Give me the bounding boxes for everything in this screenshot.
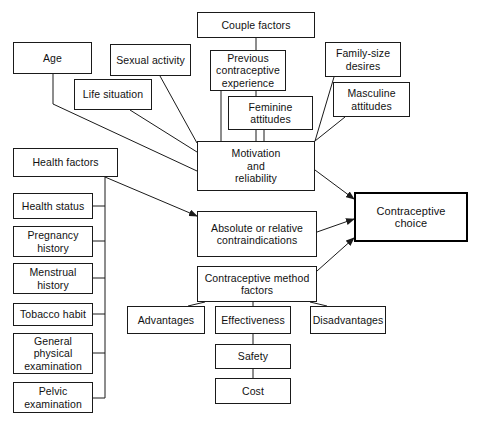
- node-pelvic_exam: Pelvic examination: [13, 382, 93, 413]
- node-label-safety: Safety: [238, 350, 268, 363]
- node-label-couple_factors: Couple factors: [221, 19, 290, 32]
- node-health_status: Health status: [13, 193, 93, 219]
- node-menstrual_history: Menstrual history: [13, 263, 93, 294]
- node-family_size_desires: Family-size desires: [325, 42, 401, 77]
- node-label-feminine_attitudes: Feminine attitudes: [249, 101, 293, 126]
- node-pregnancy_history: Pregnancy history: [13, 226, 93, 257]
- node-masculine_attitudes: Masculine attitudes: [333, 82, 410, 117]
- node-previous_experience: Previous contraceptive experience: [210, 50, 286, 91]
- node-contraceptive_choice: Contraceptive choice: [354, 192, 468, 242]
- connector-sexual-to-motivation: [160, 76, 197, 143]
- node-label-health_factors: Health factors: [32, 156, 98, 169]
- node-label-life_situation: Life situation: [83, 88, 143, 101]
- node-label-family_size_desires: Family-size desires: [336, 47, 390, 72]
- node-label-previous_experience: Previous contraceptive experience: [216, 52, 280, 90]
- node-label-pelvic_exam: Pelvic examination: [24, 385, 82, 410]
- node-label-sexual_activity: Sexual activity: [116, 54, 185, 67]
- node-label-health_status: Health status: [22, 200, 85, 213]
- node-label-method_factors: Contraceptive method factors: [205, 272, 310, 297]
- connector-life-to-motivation: [130, 110, 197, 152]
- node-life_situation: Life situation: [74, 79, 152, 110]
- node-label-effectiveness: Effectiveness: [221, 314, 285, 327]
- node-label-pregnancy_history: Pregnancy history: [27, 229, 78, 254]
- node-couple_factors: Couple factors: [197, 12, 315, 38]
- node-label-contraceptive_choice: Contraceptive choice: [359, 205, 463, 230]
- node-feminine_attitudes: Feminine attitudes: [228, 96, 313, 130]
- node-general_physical_exam: General physical examination: [13, 333, 93, 374]
- node-motivation: Motivation and reliability: [197, 141, 315, 191]
- connector-contra-to-choice: [317, 219, 354, 232]
- node-label-cost: Cost: [242, 385, 264, 398]
- connector-motivation-to-choice: [315, 170, 354, 199]
- node-advantages: Advantages: [127, 306, 205, 334]
- node-label-age: Age: [43, 52, 62, 65]
- node-contraindications: Absolute or relative contraindications: [197, 211, 317, 257]
- node-label-advantages: Advantages: [138, 314, 194, 327]
- node-label-disadvantages: Disadvantages: [313, 314, 384, 327]
- node-disadvantages: Disadvantages: [310, 306, 386, 334]
- diagram-canvas: Couple factorsAgeSexual activityPrevious…: [0, 0, 480, 424]
- node-safety: Safety: [215, 344, 291, 369]
- node-label-contraindications: Absolute or relative contraindications: [211, 222, 303, 247]
- node-label-masculine_attitudes: Masculine attitudes: [347, 87, 395, 112]
- connector-masculine-to-motivation: [315, 117, 345, 141]
- node-age: Age: [13, 42, 92, 74]
- node-label-general_physical_exam: General physical examination: [24, 335, 82, 373]
- node-label-motivation: Motivation and reliability: [232, 147, 281, 185]
- node-cost: Cost: [215, 378, 291, 404]
- node-label-menstrual_history: Menstrual history: [29, 266, 76, 291]
- node-label-tobacco_habit: Tobacco habit: [20, 308, 86, 321]
- connector-methodfactors-to-choice: [317, 238, 354, 271]
- node-method_factors: Contraceptive method factors: [197, 266, 317, 302]
- node-effectiveness: Effectiveness: [215, 306, 291, 334]
- node-health_factors: Health factors: [13, 148, 118, 177]
- connector-familysize-to-motivation: [315, 77, 334, 141]
- connector-health-to-contraindications: [105, 177, 197, 216]
- node-sexual_activity: Sexual activity: [110, 44, 191, 76]
- node-tobacco_habit: Tobacco habit: [13, 303, 93, 326]
